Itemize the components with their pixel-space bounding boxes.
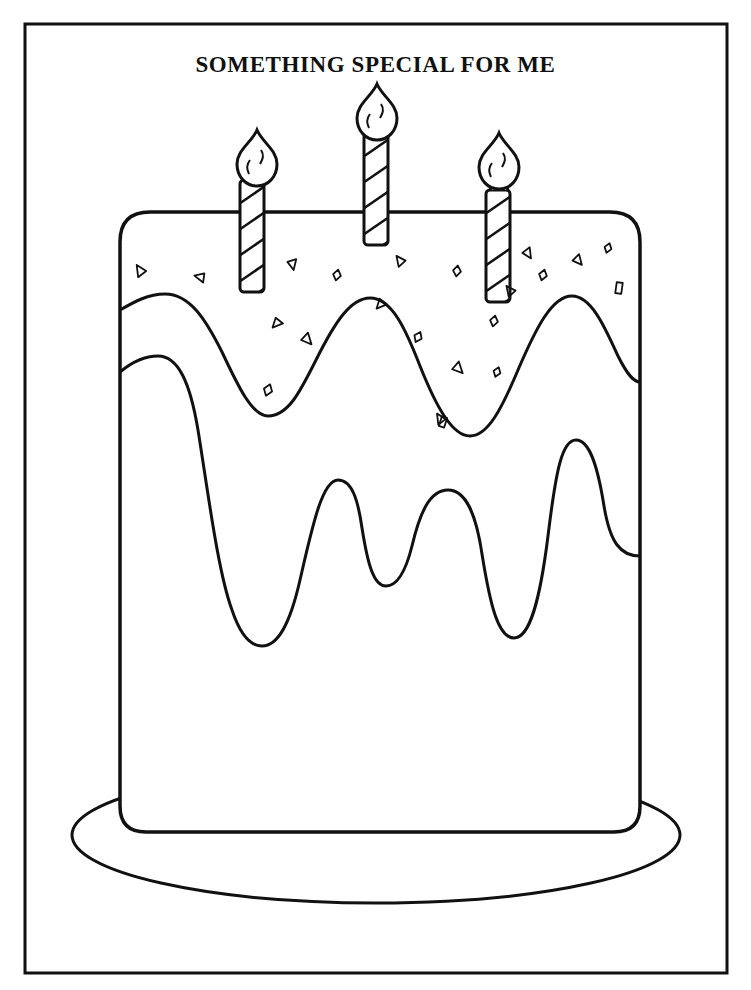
candle-left-flame: [237, 130, 277, 186]
candle-center-body: [364, 133, 388, 245]
cake-line-art: [0, 0, 751, 990]
cake-body: [120, 212, 640, 832]
candle-right-flame: [479, 133, 519, 189]
candle-left-body: [240, 180, 264, 292]
candle-center-flame: [357, 84, 397, 140]
coloring-page: SOMETHING SPECIAL FOR ME: [0, 0, 751, 990]
